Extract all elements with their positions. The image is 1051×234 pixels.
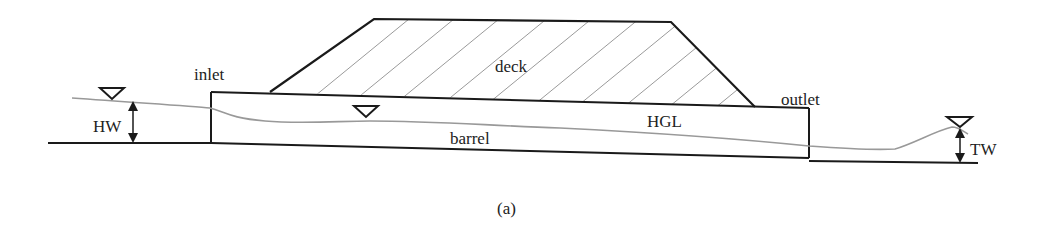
barrel	[211, 92, 809, 158]
tailwater-dimension-arrow	[955, 128, 965, 163]
headwater-dimension-arrow	[128, 101, 138, 143]
culvert-diagram: deck inlet outlet barrel HGL HW TW (a)	[0, 0, 1051, 234]
outlet-label: outlet	[781, 90, 820, 109]
figure-caption: (a)	[497, 199, 516, 218]
headwater-level-symbol	[100, 88, 124, 99]
barrel-top	[211, 92, 809, 108]
tailwater-level-symbol	[947, 117, 972, 127]
downstream-ground	[809, 161, 978, 163]
water-surface-hgl	[72, 98, 968, 149]
barrel-bottom	[211, 143, 809, 158]
deck-hatching	[310, 10, 825, 108]
barrel-water-level-symbol	[354, 106, 378, 117]
deck-label: deck	[495, 57, 528, 76]
inlet-label: inlet	[194, 65, 224, 84]
hgl-label: HGL	[647, 112, 682, 131]
barrel-label: barrel	[450, 129, 490, 148]
headwater-label: HW	[93, 117, 122, 136]
tailwater-label: TW	[970, 140, 997, 159]
